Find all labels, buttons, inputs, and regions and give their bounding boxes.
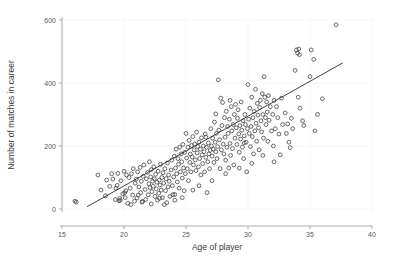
x-tick-label: 30 bbox=[244, 231, 252, 238]
x-axis-title: Age of player bbox=[192, 242, 242, 252]
x-tick-label: 35 bbox=[306, 231, 314, 238]
y-tick-label: 0 bbox=[52, 206, 56, 213]
y-tick-label: 200 bbox=[44, 143, 56, 150]
y-axis-title: Number of matches in career bbox=[6, 60, 16, 170]
scatter-plot-canvas: 0200400600 152025303540 Age of player Nu… bbox=[0, 0, 397, 261]
x-tick-label: 25 bbox=[182, 231, 190, 238]
scatter-chart-figure: 0200400600 152025303540 Age of player Nu… bbox=[0, 0, 397, 261]
y-tick-label: 400 bbox=[44, 80, 56, 87]
x-tick-label: 20 bbox=[120, 231, 128, 238]
y-tick-label: 600 bbox=[44, 17, 56, 24]
x-tick-label: 40 bbox=[368, 231, 376, 238]
chart-background bbox=[0, 0, 397, 261]
x-tick-label: 15 bbox=[58, 231, 66, 238]
